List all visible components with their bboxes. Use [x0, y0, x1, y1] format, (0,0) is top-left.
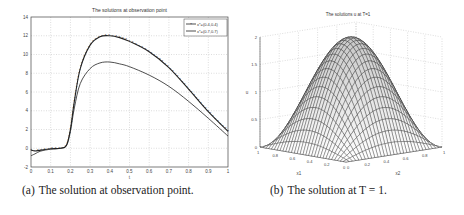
x2-tick-label: 0.6 [403, 156, 409, 161]
surface-mesh [260, 37, 442, 162]
x1-tick-label: 0.6 [290, 156, 296, 161]
y-tick-label: 14 [23, 15, 29, 20]
x-tick-label: 0.1 [48, 169, 55, 174]
caption-a-text: The solution at observation point. [39, 184, 194, 196]
z-tick-label: 0.5 [251, 117, 257, 122]
x1-tick-label: 0.8 [272, 153, 278, 158]
x2-tick-label: 0.8 [422, 153, 428, 158]
x-tick-label: 0.5 [126, 169, 133, 174]
x2-tick-label: 1 [443, 150, 446, 155]
caption-b-text: The solution at T = 1. [287, 184, 386, 196]
series-line-2 [31, 62, 228, 156]
legend: *x*=(0.4,0.4)x*=(0.7,0.7) [184, 19, 227, 36]
x1-axis-label: x1 [297, 171, 302, 176]
x-tick-label: 0.9 [205, 169, 212, 174]
legend-entry: x*=(0.7,0.7) [197, 29, 218, 34]
x-tick-label: 0.4 [107, 169, 114, 174]
x1-tick-label: 0.4 [307, 159, 313, 164]
caption-a: (a)The solution at observation point. [22, 184, 194, 196]
z-axis-label: u [246, 90, 249, 95]
z-tick-label: 1.5 [251, 62, 257, 67]
x-tick-label: 0.3 [87, 169, 94, 174]
grid-line-z [260, 22, 442, 37]
y-tick-label: 10 [23, 52, 29, 57]
figure-b: The solutions u at T=100.511.52u000.20.2… [232, 0, 464, 180]
x-tick-label: 0.8 [185, 169, 192, 174]
x2-axis-label: x2 [396, 171, 401, 176]
legend-entry: x*=(0.4,0.4) [197, 22, 218, 27]
x-tick-label: 0.7 [166, 169, 173, 174]
x2-tick-label: 0.2 [364, 162, 370, 167]
caption-b: (b)The solution at T = 1. [270, 184, 387, 196]
z-tick-label: 0 [255, 145, 258, 150]
chart-title: The solutions at observation point [92, 7, 167, 13]
surface-title: The solutions u at T=1 [326, 12, 371, 17]
star-marker: * [227, 129, 229, 134]
y-tick-label: 6 [25, 90, 28, 95]
x1-tick-label: 0.2 [324, 162, 330, 167]
y-tick-label: 4 [25, 108, 28, 113]
x-tick-label: 1 [227, 169, 230, 174]
z-tick-label: 1 [255, 90, 258, 95]
caption-a-label: (a) [22, 184, 35, 196]
y-tick-label: 12 [23, 33, 29, 38]
x-tick-label: 0.6 [146, 169, 153, 174]
caption-b-label: (b) [270, 184, 283, 196]
y-tick-label: 0 [25, 146, 28, 151]
x2-tick-label: 0 [347, 165, 350, 170]
z-tick-label: 2 [255, 35, 258, 40]
y-tick-label: -2 [24, 165, 28, 170]
line-chart: The solutions at observation point-20246… [0, 0, 232, 180]
y-tick-label: 2 [25, 127, 28, 132]
surface-plot: The solutions u at T=100.511.52u000.20.2… [232, 0, 464, 180]
x-tick-label: 0 [30, 169, 33, 174]
x1-tick-label: 0 [343, 165, 346, 170]
y-tick-label: 8 [25, 71, 28, 76]
x-tick-label: 0.2 [67, 169, 74, 174]
x2-tick-label: 0.4 [384, 159, 390, 164]
x-axis-label: t [129, 175, 131, 180]
x1-tick-label: 1 [257, 150, 260, 155]
figure-a: The solutions at observation point-20246… [0, 0, 232, 180]
